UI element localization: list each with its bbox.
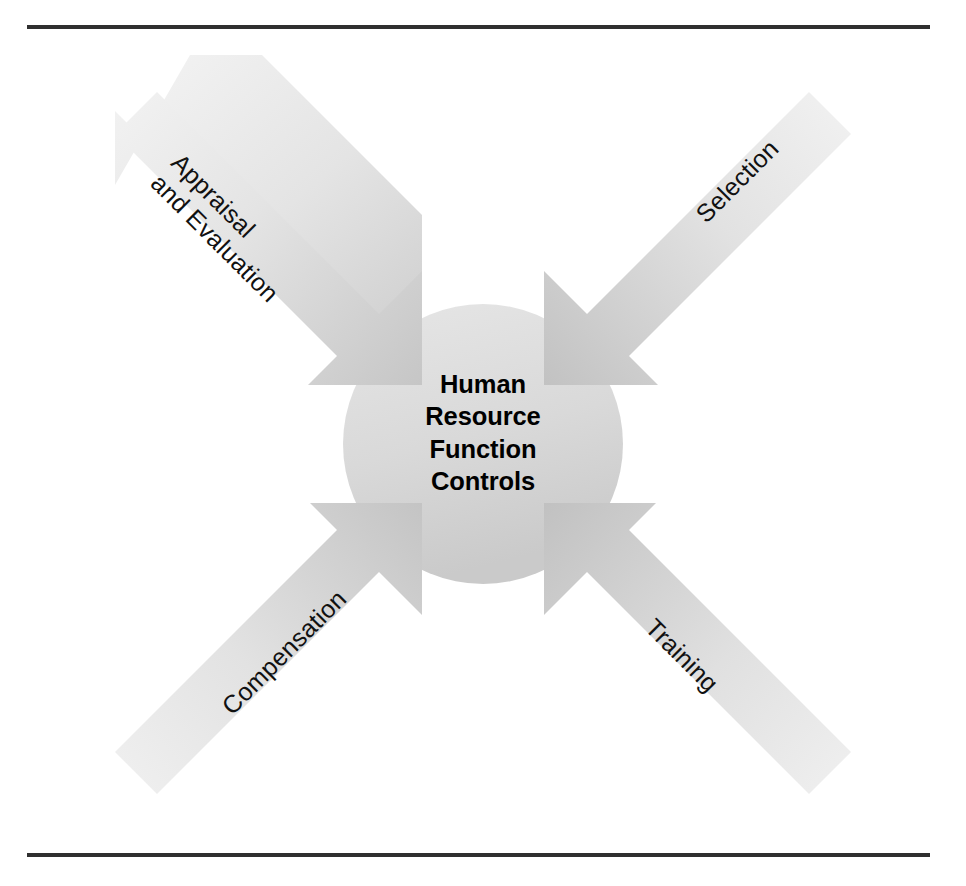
bottom-horizontal-rule [27,853,930,857]
figure-page: Appraisaland Evaluation Selection Compen… [0,0,966,886]
diagram-canvas [0,0,966,886]
hr-function-controls-diagram: Appraisaland Evaluation Selection Compen… [0,0,966,886]
center-circle[interactable] [343,304,623,584]
